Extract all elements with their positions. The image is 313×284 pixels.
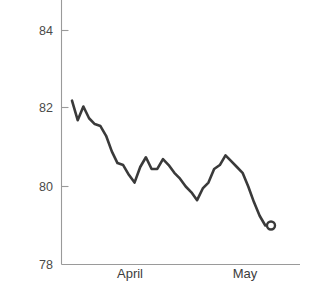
y-axis-group bbox=[62, 0, 69, 265]
x-tick-labels: April May bbox=[117, 266, 258, 281]
y-tick-label-80: 80 bbox=[39, 180, 53, 194]
y-tick-label-82: 82 bbox=[39, 101, 53, 115]
series-end-marker bbox=[267, 222, 275, 230]
y-tick-labels: 84 82 80 78 bbox=[39, 24, 53, 272]
x-tick-label-april: April bbox=[117, 266, 143, 281]
chart-canvas: 84 82 80 78 April May bbox=[0, 0, 313, 284]
series-line-primary bbox=[72, 101, 271, 226]
y-tick-label-78: 78 bbox=[39, 258, 53, 272]
x-tick-label-may: May bbox=[233, 266, 258, 281]
line-chart: 84 82 80 78 April May bbox=[0, 0, 313, 284]
y-tick-label-84: 84 bbox=[39, 24, 53, 38]
